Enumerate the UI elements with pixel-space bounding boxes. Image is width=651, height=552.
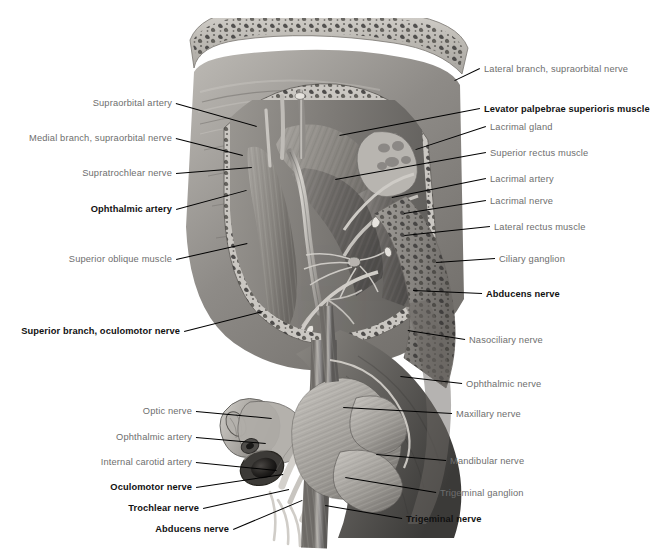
basal-nerve-threads [270,492,300,546]
supraorbital-artery [300,92,303,156]
label-lacrimal-gland: Lacrimal gland [490,122,553,133]
label-superior-oblique-muscle: Superior oblique muscle [69,254,172,265]
label-trochlear-nerve: Trochlear nerve [128,503,199,514]
medial-branch-supraorbital-nerve [282,96,283,158]
label-oculomotor-nerve: Oculomotor nerve [110,482,192,493]
label-lateral-rectus-muscle: Lateral rectus muscle [494,222,586,233]
label-supraorbital-artery: Supraorbital artery [93,98,172,109]
label-mandibular-nerve: Mandibular nerve [450,456,524,467]
label-abducens-nerve: Abducens nerve [486,289,560,300]
orbit-illustration [178,0,478,552]
label-maxillary-nerve: Maxillary nerve [456,409,521,420]
label-lacrimal-artery: Lacrimal artery [490,174,554,185]
label-superior-rectus-muscle: Superior rectus muscle [490,148,588,159]
label-lacrimal-nerve: Lacrimal nerve [490,196,553,207]
label-optic-nerve: Optic nerve [143,406,192,417]
label-ciliary-ganglion: Ciliary ganglion [499,254,565,265]
label-ophthalmic-nerve: Ophthalmic nerve [466,379,541,390]
label-abducens-nerve: Abducens nerve [155,524,229,535]
label-medial-branch-supraorbital-nerve: Medial branch, supraorbital nerve [29,133,172,144]
label-trigeminal-nerve: Trigeminal nerve [406,514,482,525]
label-nasociliary-nerve: Nasociliary nerve [469,335,543,346]
orbit-illustration-svg [178,0,478,552]
label-lateral-branch-supraorbital-nerve: Lateral branch, supraorbital nerve [484,64,628,75]
label-ophthalmic-artery: Ophthalmic artery [116,432,192,443]
label-superior-branch-oculomotor-nerve: Superior branch, oculomotor nerve [21,326,180,337]
label-supratrochlear-nerve: Supratrochlear nerve [82,168,172,179]
label-levator-palpebrae-superioris-muscle: Levator palpebrae superioris muscle [484,104,650,115]
supraorbital-bundle-stump [295,93,305,100]
label-ophthalmic-artery: Ophthalmic artery [91,204,172,215]
label-internal-carotid-artery: Internal carotid artery [101,457,192,468]
ophthalmic-nerve-striations [326,306,332,382]
label-trigeminal-ganglion: Trigeminal ganglion [440,488,524,499]
anatomy-figure: Supraorbital arteryMedial branch, suprao… [0,0,651,552]
